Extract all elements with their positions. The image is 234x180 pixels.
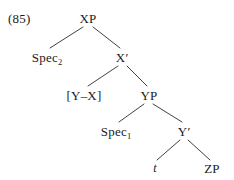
tree-branch-xp-to-xbar <box>93 27 120 48</box>
tree-node-label: t <box>153 161 157 175</box>
tree-branch-lines <box>0 0 234 180</box>
tree-node-label: X <box>116 50 126 65</box>
tree-node-label: [Y–X] <box>67 88 102 103</box>
syntax-tree-figure: (85) XPSpec2X′[Y–X]YPSpec1Y′tZP <box>0 0 234 180</box>
tree-node-subscript: 1 <box>127 130 131 140</box>
tree-node-subscript: 2 <box>58 56 62 66</box>
tree-node-spec1: Spec1 <box>101 125 131 138</box>
tree-node-xp: XP <box>79 12 96 25</box>
tree-branch-yp-to-spec1 <box>119 104 144 122</box>
tree-branch-xp-to-spec2 <box>50 27 83 48</box>
tree-node-label: YP <box>140 88 157 103</box>
tree-branch-xbar-to-yx <box>88 66 118 86</box>
tree-node-label: ZP <box>204 161 220 176</box>
tree-node-prime: ′ <box>187 124 190 139</box>
tree-node-xbar: X′ <box>116 51 128 64</box>
tree-node-spec2: Spec2 <box>32 51 62 64</box>
tree-branch-yp-to-ybar <box>153 104 182 122</box>
tree-branch-xbar-to-yp <box>127 66 147 86</box>
tree-node-yx: [Y–X] <box>67 89 102 102</box>
tree-node-label: Spec <box>32 50 58 65</box>
tree-node-label: Spec <box>101 124 127 139</box>
tree-node-label: XP <box>79 11 96 26</box>
tree-branch-ybar-to-trace <box>157 140 180 160</box>
tree-node-label: Y <box>178 124 188 139</box>
tree-node-ybar: Y′ <box>178 125 190 138</box>
tree-node-yp: YP <box>140 89 157 102</box>
tree-branch-ybar-to-zp <box>188 140 210 160</box>
tree-node-prime: ′ <box>125 50 128 65</box>
tree-node-zp: ZP <box>204 162 220 175</box>
tree-node-trace: t <box>153 162 157 174</box>
